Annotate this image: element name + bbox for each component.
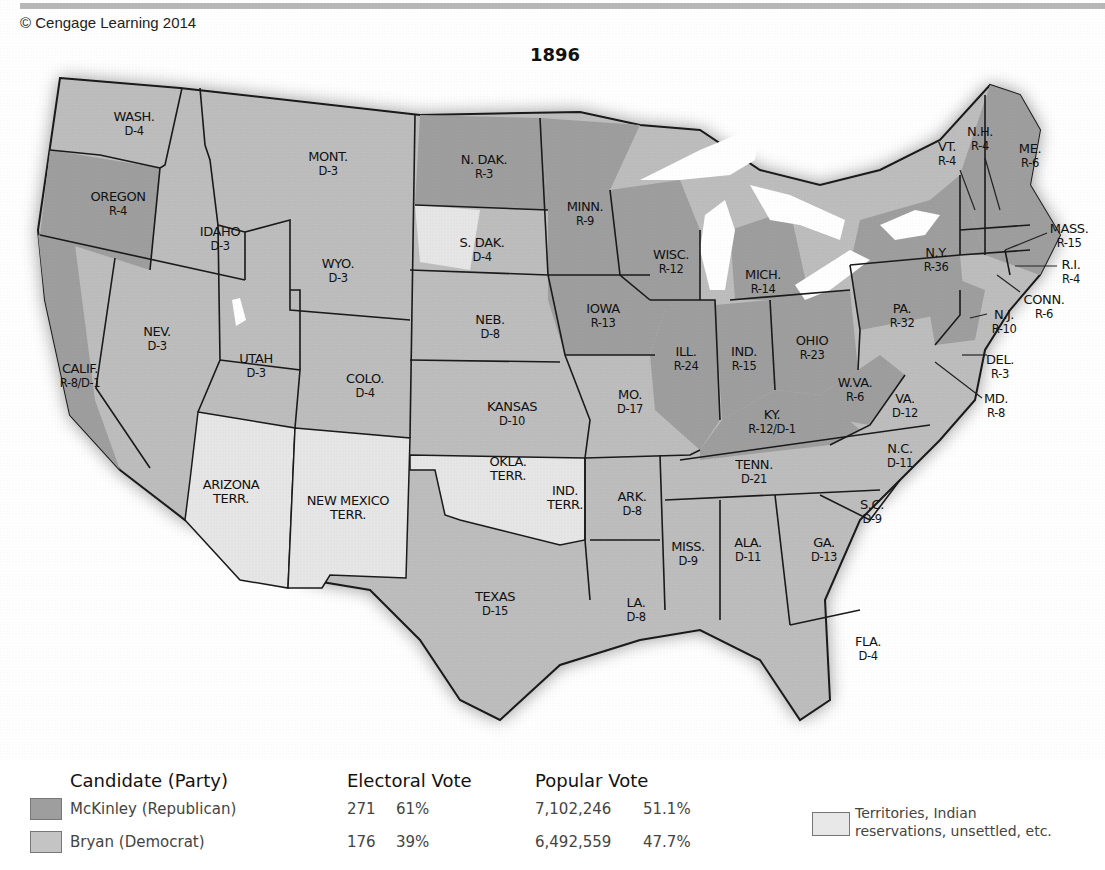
state-label-minnesota: MINN.R-9 — [567, 200, 604, 228]
us-map-graphic — [0, 0, 1105, 760]
election-map-1896: 1896 WASH.D-4 OREGONR-4 CALIF.R-8/D-1 ID… — [0, 0, 1105, 760]
swatch-territories — [812, 812, 850, 836]
state-label-colorado: COLO.D-4 — [346, 372, 384, 400]
state-label-georgia: GA.D-13 — [811, 536, 837, 564]
legend-header-popular: Popular Vote — [535, 770, 648, 791]
state-label-maine: ME.R-6 — [1019, 142, 1041, 170]
state-label-washington: WASH.D-4 — [114, 110, 155, 138]
state-label-utah: UTAHD-3 — [239, 352, 273, 380]
state-label-virginia: VA.D-12 — [892, 392, 918, 420]
mckinley-popular-pct: 51.1% — [643, 800, 691, 818]
state-label-new-york: N.Y.R-36 — [924, 246, 949, 274]
bryan-electoral-votes: 176 — [347, 833, 376, 851]
state-label-michigan: MICH.R-14 — [745, 268, 781, 296]
candidate-mckinley: McKinley (Republican) — [70, 800, 236, 818]
map-title: 1896 — [530, 44, 580, 65]
mckinley-electoral-pct: 61% — [396, 800, 429, 818]
state-label-connecticut: CONN.R-6 — [1024, 293, 1065, 321]
mckinley-popular-votes: 7,102,246 — [535, 800, 611, 818]
state-label-florida: FLA.D-4 — [855, 635, 881, 663]
state-label-massachusetts: MASS.R-15 — [1050, 222, 1089, 250]
state-label-wisconsin: WISC.R-12 — [653, 248, 689, 276]
state-label-montana: MONT.D-3 — [308, 150, 348, 178]
state-label-south-carolina: S.C.D-9 — [860, 498, 884, 526]
state-label-pennsylvania: PA.R-32 — [890, 302, 915, 330]
state-label-louisiana: LA.D-8 — [626, 596, 645, 624]
state-label-kentucky: KY.R-12/D-1 — [748, 408, 795, 436]
state-label-rhode-island: R.I.R-4 — [1061, 258, 1080, 286]
state-label-tennessee: TENN.D-21 — [735, 458, 773, 486]
state-label-new-hampshire: N.H.R-4 — [967, 125, 993, 153]
state-label-california: CALIF.R-8/D-1 — [60, 362, 100, 390]
state-label-wyoming: WYO.D-3 — [322, 257, 354, 285]
bryan-popular-pct: 47.7% — [643, 833, 691, 851]
territory-label-oklahoma: OKLA.TERR. — [489, 455, 526, 483]
state-label-alabama: ALA.D-11 — [734, 536, 762, 564]
state-label-vermont: VT.R-4 — [938, 140, 956, 168]
swatch-democrat — [30, 831, 62, 853]
state-label-north-carolina: N.C.D-11 — [887, 442, 913, 470]
state-label-west-virginia: W.VA.R-6 — [838, 376, 872, 404]
state-label-nevada: NEV.D-3 — [143, 325, 171, 353]
mckinley-electoral-votes: 271 — [347, 800, 376, 818]
state-label-delaware: DEL.R-3 — [986, 353, 1014, 381]
state-label-missouri: MO.D-17 — [617, 388, 643, 416]
territory-label-arizona: ARIZONATERR. — [203, 478, 260, 506]
state-label-south-dakota: S. DAK.D-4 — [459, 236, 504, 264]
swatch-republican — [30, 798, 62, 820]
state-label-arkansas: ARK.D-8 — [618, 490, 647, 518]
bryan-popular-votes: 6,492,559 — [535, 833, 611, 851]
candidate-bryan: Bryan (Democrat) — [70, 833, 205, 851]
state-label-mississippi: MISS.D-9 — [671, 540, 705, 568]
map-legend: Candidate (Party) Electoral Vote Popular… — [0, 760, 1105, 870]
territory-label-new-mexico: NEW MEXICOTERR. — [307, 494, 389, 522]
legend-header-candidate: Candidate (Party) — [70, 770, 228, 791]
bryan-electoral-pct: 39% — [396, 833, 429, 851]
state-label-ohio: OHIOR-23 — [796, 334, 828, 362]
state-label-nebraska: NEB.D-8 — [475, 313, 504, 341]
state-label-iowa: IOWAR-13 — [586, 302, 620, 330]
state-label-maryland: MD.R-8 — [984, 392, 1008, 420]
state-label-texas: TEXASD-15 — [475, 590, 515, 618]
state-label-new-jersey: N.J.R-10 — [992, 308, 1017, 336]
state-label-kansas: KANSASD-10 — [487, 400, 537, 428]
legend-header-electoral: Electoral Vote — [347, 770, 472, 791]
state-label-illinois: ILL.R-24 — [674, 345, 699, 373]
territory-label-indian: IND.TERR. — [547, 484, 583, 512]
state-label-idaho: IDAHOD-3 — [200, 225, 241, 253]
state-label-indiana: IND.R-15 — [731, 345, 757, 373]
state-label-oregon: OREGONR-4 — [90, 190, 145, 218]
territories-label-line1: Territories, Indian — [855, 805, 977, 821]
state-label-north-dakota: N. DAK.R-3 — [461, 153, 508, 181]
territories-label-line2: reservations, unsettled, etc. — [855, 823, 1052, 839]
